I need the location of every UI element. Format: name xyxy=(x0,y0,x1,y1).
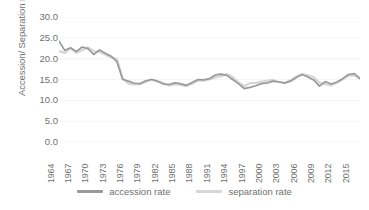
plot-svg xyxy=(59,17,360,142)
y-tick-label: 0.0 xyxy=(24,137,58,146)
plot-area xyxy=(59,17,360,142)
legend-label: accession rate xyxy=(109,186,170,197)
x-tick-label: 1979 xyxy=(132,164,142,183)
legend-label: separation rate xyxy=(228,186,291,197)
legend-item[interactable]: separation rate xyxy=(196,186,291,197)
x-tick-label: 1967 xyxy=(63,164,73,183)
y-tick-label: 10.0 xyxy=(24,95,58,104)
x-tick-label: 2012 xyxy=(323,164,333,183)
series-lines xyxy=(59,41,360,89)
x-tick-label: 1985 xyxy=(167,164,177,183)
x-tick-label: 1970 xyxy=(80,164,90,183)
x-tick-label: 1991 xyxy=(202,164,212,183)
series-line-accession-rate xyxy=(59,41,360,89)
y-tick-label: 15.0 xyxy=(24,75,58,84)
y-tick-label: 5.0 xyxy=(24,116,58,125)
x-tick-label: 1982 xyxy=(150,164,160,183)
y-tick-label: 25.0 xyxy=(24,33,58,42)
x-tick-label: 2000 xyxy=(254,164,264,183)
x-tick-label: 1976 xyxy=(115,164,125,183)
x-tick-label: 1973 xyxy=(98,164,108,183)
legend-swatch-icon xyxy=(77,190,103,193)
x-tick-label: 2009 xyxy=(306,164,316,183)
line-chart: Accession/ Separation rate 30.025.020.01… xyxy=(0,0,369,210)
chart-legend: accession rateseparation rate xyxy=(0,186,369,197)
x-tick-label: 1994 xyxy=(219,164,229,183)
x-tick-label: 2003 xyxy=(271,164,281,183)
y-tick-label: 20.0 xyxy=(24,54,58,63)
y-tick-label: 30.0 xyxy=(24,12,58,21)
legend-item[interactable]: accession rate xyxy=(77,186,170,197)
x-tick-label: 1988 xyxy=(184,164,194,183)
x-tick-label: 2015 xyxy=(341,164,351,183)
x-axis-tick-labels: 1964196719701973197619791982198519881991… xyxy=(59,145,360,183)
x-tick-label: 2006 xyxy=(289,164,299,183)
legend-swatch-icon xyxy=(196,190,222,193)
x-tick-label: 1964 xyxy=(46,164,56,183)
x-tick-label: 1997 xyxy=(237,164,247,183)
